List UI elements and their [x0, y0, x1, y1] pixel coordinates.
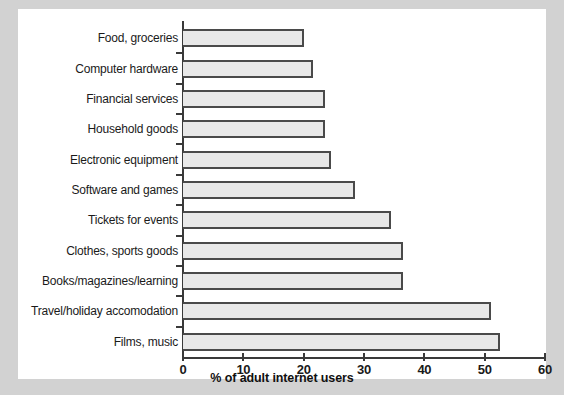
category-label: Tickets for events — [18, 213, 178, 227]
category-label: Films, music — [18, 335, 178, 349]
y-axis-tick — [176, 265, 183, 267]
x-axis-tick — [303, 353, 305, 361]
bar-row — [183, 29, 545, 47]
plot-area — [183, 23, 545, 357]
bar-row — [183, 120, 545, 138]
category-label: Clothes, sports goods — [18, 244, 178, 258]
category-label: Food, groceries — [18, 31, 178, 45]
x-axis-tick — [544, 353, 546, 361]
bar — [183, 242, 403, 260]
y-axis-tick — [176, 52, 183, 54]
y-axis-tick — [176, 235, 183, 237]
bar-row — [183, 151, 545, 169]
category-label: Electronic equipment — [18, 153, 178, 167]
x-axis-tick — [363, 353, 365, 361]
bar-row — [183, 302, 545, 320]
bar — [183, 333, 500, 351]
x-axis-tick — [242, 353, 244, 361]
category-label: Travel/holiday accomodation — [18, 304, 178, 318]
category-label: Computer hardware — [18, 62, 178, 76]
bar — [183, 90, 325, 108]
x-axis-title: % of adult internet users — [0, 371, 564, 385]
y-axis-tick — [176, 174, 183, 176]
x-axis-tick — [484, 353, 486, 361]
bar-row — [183, 242, 545, 260]
bar-row — [183, 60, 545, 78]
bar-row — [183, 333, 545, 351]
x-axis-tick — [182, 353, 184, 361]
y-axis-tick — [176, 295, 183, 297]
bar — [183, 302, 491, 320]
y-axis-category-labels: Food, groceriesComputer hardwareFinancia… — [18, 23, 178, 357]
bar — [183, 29, 304, 47]
category-label: Financial services — [18, 92, 178, 106]
bar-row — [183, 181, 545, 199]
category-label: Software and games — [18, 183, 178, 197]
y-axis-tick — [176, 83, 183, 85]
y-axis-tick — [176, 204, 183, 206]
x-axis-tick — [423, 353, 425, 361]
category-label: Books/magazines/learning — [18, 274, 178, 288]
bar — [183, 272, 403, 290]
bar-row — [183, 211, 545, 229]
y-axis-tick — [176, 143, 183, 145]
bar-row — [183, 272, 545, 290]
bar — [183, 151, 331, 169]
bar-row — [183, 90, 545, 108]
category-label: Household goods — [18, 122, 178, 136]
bar — [183, 120, 325, 138]
bar — [183, 211, 391, 229]
bar — [183, 60, 313, 78]
y-axis-tick — [176, 113, 183, 115]
chart-panel: Food, groceriesComputer hardwareFinancia… — [18, 9, 546, 379]
y-axis-tick — [176, 326, 183, 328]
bar — [183, 181, 355, 199]
screenshot-frame: Food, groceriesComputer hardwareFinancia… — [0, 0, 564, 395]
